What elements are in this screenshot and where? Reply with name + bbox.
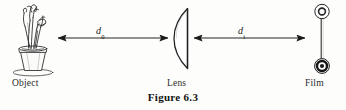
film-spool-icon xyxy=(315,4,330,73)
film-label: Film xyxy=(305,79,324,89)
potted-plant-icon xyxy=(13,5,53,76)
plano-convex-lens-icon xyxy=(174,9,188,69)
figure-6-3: d0 di Object Lens Film Figure 6.3 xyxy=(0,0,346,110)
object-distance-label: d0 xyxy=(96,26,104,36)
object-label: Object xyxy=(12,79,39,89)
object-distance-subscript: 0 xyxy=(101,33,104,40)
lens-label: Lens xyxy=(167,79,186,89)
figure-caption: Figure 6.3 xyxy=(0,92,346,103)
image-distance-label: di xyxy=(238,26,245,36)
image-distance-subscript: i xyxy=(243,33,245,40)
